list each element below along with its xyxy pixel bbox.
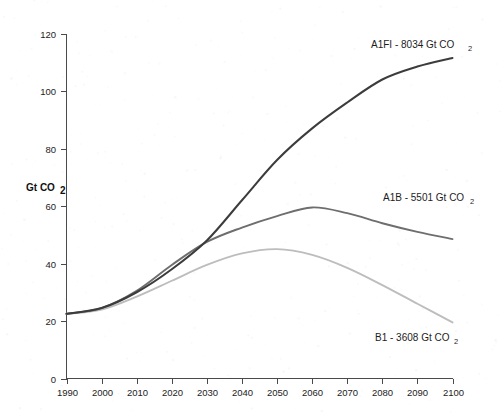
y-tick-label: 80	[45, 144, 56, 155]
x-tick-label: 2010	[127, 387, 148, 398]
y-tick-label: 20	[45, 316, 56, 327]
series-annotation-b1: B1 - 3608 Gt CO 2	[375, 332, 458, 346]
series-label-a1fi: A1FI - 8034 Gt CO	[371, 39, 455, 50]
series-label-a1b: A1B - 5501 Gt CO	[383, 192, 464, 203]
x-tick-label: 2040	[232, 387, 253, 398]
series-line-b1	[67, 249, 453, 322]
series-label-b1: B1 - 3608 Gt CO	[375, 332, 450, 343]
y-axis-title-text: Gt CO	[26, 182, 55, 193]
chart-canvas: 020406080100120 199020002010202020302040…	[0, 0, 501, 413]
y-axis-title-subscript: 2	[60, 185, 66, 196]
y-axis-ticks: 020406080100120	[40, 29, 66, 385]
x-tick-label: 2060	[302, 387, 323, 398]
x-tick-label: 1990	[57, 387, 78, 398]
x-tick-label: 2100	[443, 387, 464, 398]
series-label-b1-subscript: 2	[454, 337, 458, 346]
x-tick-label: 2020	[162, 387, 183, 398]
y-tick-label: 120	[40, 29, 56, 40]
y-tick-label: 40	[45, 259, 56, 270]
y-axis-title: Gt CO 2	[26, 182, 66, 196]
chart-axes	[67, 34, 453, 379]
x-tick-label: 2000	[92, 387, 113, 398]
x-tick-label: 2030	[197, 387, 218, 398]
y-tick-label: 60	[45, 201, 56, 212]
y-tick-label: 0	[51, 374, 56, 385]
x-tick-label: 2050	[267, 387, 288, 398]
series-annotation-a1fi: A1FI - 8034 Gt CO 2	[371, 39, 472, 53]
emissions-scenarios-chart: 020406080100120 199020002010202020302040…	[0, 0, 501, 413]
x-tick-label: 2090	[407, 387, 428, 398]
series-label-a1fi-subscript: 2	[468, 44, 472, 53]
series-label-a1b-subscript: 2	[470, 197, 474, 206]
y-tick-label: 100	[40, 86, 56, 97]
x-tick-label: 2080	[372, 387, 393, 398]
x-tick-label: 2070	[337, 387, 358, 398]
x-axis-ticks: 1990200020102020203020402050206020702080…	[57, 379, 464, 399]
series-line-a1fi	[67, 58, 453, 314]
series-layer	[67, 58, 453, 323]
series-annotation-a1b: A1B - 5501 Gt CO 2	[383, 192, 474, 206]
